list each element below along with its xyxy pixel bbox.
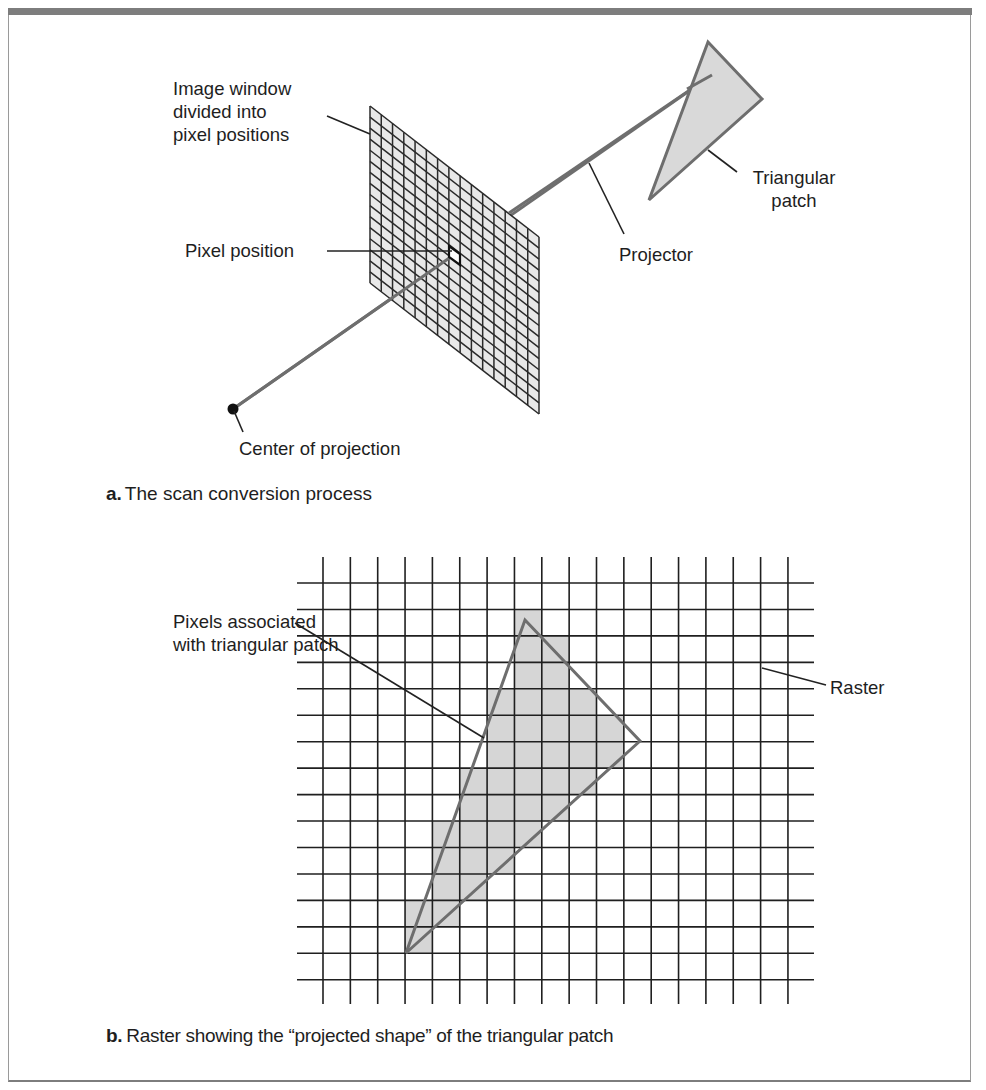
shaded-pixel bbox=[514, 689, 541, 715]
shaded-pixel bbox=[542, 768, 569, 794]
caption-b-letter: b. bbox=[106, 1025, 122, 1046]
image-window-leader bbox=[327, 116, 370, 134]
pixels-associated-label-line-1: Pixels associated bbox=[173, 610, 339, 633]
shaded-pixel bbox=[514, 715, 541, 741]
shaded-pixel bbox=[514, 768, 541, 794]
shaded-pixel bbox=[542, 715, 569, 741]
shaded-pixel bbox=[460, 795, 487, 821]
image-window-label-line-1: Image window bbox=[173, 77, 291, 100]
caption-a: a.The scan conversion process bbox=[106, 483, 372, 505]
image-window-label: Image window divided into pixel position… bbox=[173, 77, 291, 146]
shaded-pixel bbox=[487, 742, 514, 768]
shaded-pixel bbox=[514, 795, 541, 821]
shaded-pixel bbox=[487, 715, 514, 741]
shaded-pixel bbox=[542, 742, 569, 768]
raster-label: Raster bbox=[830, 676, 885, 699]
center-of-projection-label: Center of projection bbox=[239, 437, 400, 460]
caption-a-letter: a. bbox=[106, 483, 122, 504]
shaded-pixel bbox=[569, 768, 596, 794]
shaded-pixel bbox=[460, 874, 487, 900]
shaded-pixel bbox=[460, 848, 487, 874]
shaded-pixel bbox=[432, 874, 459, 900]
pixel-position-label: Pixel position bbox=[185, 239, 294, 262]
shaded-pixel bbox=[514, 662, 541, 688]
shaded-pixel bbox=[597, 742, 624, 768]
shaded-pixel bbox=[542, 689, 569, 715]
caption-a-text: The scan conversion process bbox=[125, 483, 372, 504]
shaded-pixel bbox=[487, 848, 514, 874]
caption-b-text: Raster showing the “projected shape” of … bbox=[126, 1025, 613, 1046]
triangular-patch-leader bbox=[708, 150, 737, 172]
caption-b: b.Raster showing the “projected shape” o… bbox=[106, 1025, 613, 1047]
image-window-label-line-3: pixel positions bbox=[173, 123, 291, 146]
shaded-pixel bbox=[542, 662, 569, 688]
shaded-pixel bbox=[569, 742, 596, 768]
triangular-patch-label-line-2: patch bbox=[740, 189, 848, 212]
image-window-label-line-2: divided into bbox=[173, 100, 291, 123]
pixels-associated-label: Pixels associated with triangular patch bbox=[173, 610, 339, 656]
shaded-pixel bbox=[487, 768, 514, 794]
shaded-pixel bbox=[460, 821, 487, 847]
triangular-patch-label-line-1: Triangular bbox=[740, 166, 848, 189]
projector-label: Projector bbox=[619, 243, 693, 266]
triangular-patch-label: Triangular patch bbox=[740, 166, 848, 212]
projector-line-near bbox=[233, 254, 455, 409]
center-of-projection-leader bbox=[234, 411, 243, 432]
figure-a-diagram bbox=[0, 0, 986, 1090]
shaded-pixel bbox=[514, 742, 541, 768]
pixels-associated-label-line-2: with triangular patch bbox=[173, 633, 339, 656]
raster-leader bbox=[762, 668, 826, 685]
shaded-pixel bbox=[569, 715, 596, 741]
shaded-pixel bbox=[487, 795, 514, 821]
shaded-pixel bbox=[432, 900, 459, 926]
projector-leader bbox=[589, 163, 624, 234]
shaded-pixel bbox=[487, 821, 514, 847]
center-of-projection-point bbox=[228, 404, 239, 415]
